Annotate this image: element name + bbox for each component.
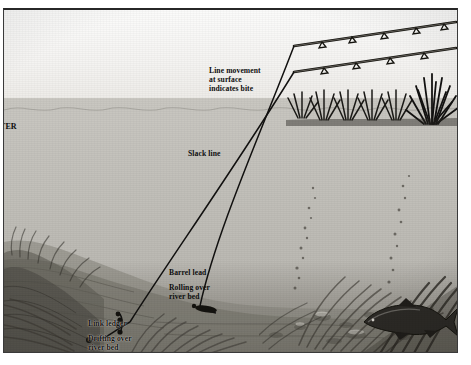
label-bite-indication: Line movement at surface indicates bite [209,66,261,94]
illustration-canvas: TER Line movement at surface indicates b… [0,0,471,365]
label-barrel-lead: Barrel lead [169,268,206,277]
illustration-plate: TER Line movement at surface indicates b… [3,8,458,353]
label-barrel-lead-detail: Rolling over river bed [169,283,210,301]
label-water-edge: TER [3,122,17,131]
vignette-overlay [4,10,457,352]
label-link-ledger: Link ledger [88,319,127,328]
label-link-ledger-detail: Drifting over river bed [88,334,132,352]
label-slack-line: Slack line [188,149,220,158]
